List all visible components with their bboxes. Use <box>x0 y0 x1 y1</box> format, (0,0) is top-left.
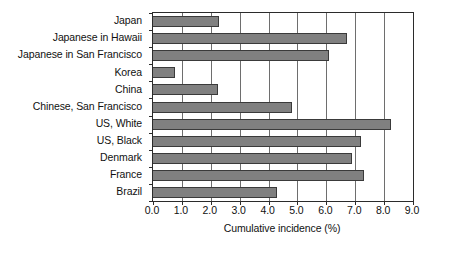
bars-layer <box>153 13 413 201</box>
bar <box>153 67 175 78</box>
category-label: Brazil <box>0 183 147 200</box>
bar-row <box>153 13 413 30</box>
y-axis-tick <box>149 167 153 168</box>
category-label-column: JapanJapanese in HawaiiJapanese in San F… <box>0 12 147 200</box>
category-label: Chinese, San Francisco <box>0 97 147 114</box>
x-axis-tick-label: 4.0 <box>260 204 274 216</box>
x-axis-tick-label: 0.0 <box>145 204 159 216</box>
y-axis-tick <box>149 13 153 14</box>
y-axis-tick <box>149 98 153 99</box>
bar-chart-figure: JapanJapanese in HawaiiJapanese in San F… <box>0 0 449 257</box>
category-label: Japanese in San Francisco <box>0 46 147 63</box>
bar <box>153 153 352 164</box>
x-axis-tick-labels: 0.01.02.03.04.05.06.07.08.09.0 <box>152 204 412 218</box>
bar-row <box>153 30 413 47</box>
x-axis-tick-label: 5.0 <box>289 204 303 216</box>
y-axis-tick <box>149 47 153 48</box>
x-axis-tick-label: 1.0 <box>174 204 188 216</box>
bar-row <box>153 64 413 81</box>
bar-row <box>153 150 413 167</box>
category-label: Korea <box>0 63 147 80</box>
category-label: France <box>0 166 147 183</box>
bar-row <box>153 116 413 133</box>
bar-row <box>153 81 413 98</box>
bar <box>153 187 277 198</box>
x-axis-tick-label: 7.0 <box>347 204 361 216</box>
y-axis-tick <box>149 201 153 202</box>
x-axis-tick-label: 2.0 <box>203 204 217 216</box>
plot-frame <box>152 12 414 202</box>
category-label: China <box>0 80 147 97</box>
category-label: Japan <box>0 12 147 29</box>
bar <box>153 33 347 44</box>
x-axis-title: Cumulative incidence (%) <box>152 222 412 234</box>
y-axis-tick <box>149 133 153 134</box>
category-label: US, Black <box>0 132 147 149</box>
y-axis-tick <box>149 30 153 31</box>
category-label: Japanese in Hawaii <box>0 29 147 46</box>
y-axis-tick <box>149 184 153 185</box>
category-label: US, White <box>0 115 147 132</box>
bar <box>153 84 218 95</box>
y-axis-tick <box>149 81 153 82</box>
y-axis-tick <box>149 64 153 65</box>
bar <box>153 136 361 147</box>
bar <box>153 119 391 130</box>
bar <box>153 170 364 181</box>
plot-area <box>153 13 413 201</box>
bar-row <box>153 167 413 184</box>
bar-row <box>153 133 413 150</box>
x-axis-tick-label: 9.0 <box>405 204 419 216</box>
bar <box>153 16 219 27</box>
x-axis-tick-label: 8.0 <box>376 204 390 216</box>
bar-row <box>153 184 413 201</box>
bar <box>153 50 329 61</box>
y-axis-tick <box>149 150 153 151</box>
bar-row <box>153 47 413 64</box>
bar <box>153 102 292 113</box>
x-axis-tick-label: 3.0 <box>232 204 246 216</box>
category-label: Denmark <box>0 149 147 166</box>
bar-row <box>153 98 413 115</box>
x-axis-tick-label: 6.0 <box>318 204 332 216</box>
y-axis-tick <box>149 116 153 117</box>
